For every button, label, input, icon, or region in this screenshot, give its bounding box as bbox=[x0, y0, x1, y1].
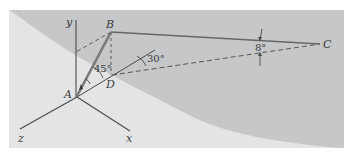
label-angle-8: 8° bbox=[255, 42, 266, 53]
label-point-B: B bbox=[105, 18, 114, 31]
label-axis-z: z bbox=[17, 132, 24, 145]
label-point-C: C bbox=[323, 38, 332, 51]
statics-diagram: y z x A B C D 45° 30° 8° bbox=[0, 0, 355, 155]
label-angle-45: 45° bbox=[94, 63, 112, 74]
label-axis-x: x bbox=[126, 132, 133, 145]
label-angle-30: 30° bbox=[147, 53, 165, 64]
label-point-A: A bbox=[63, 88, 72, 101]
label-axis-y: y bbox=[65, 16, 73, 29]
label-point-D: D bbox=[105, 78, 115, 91]
